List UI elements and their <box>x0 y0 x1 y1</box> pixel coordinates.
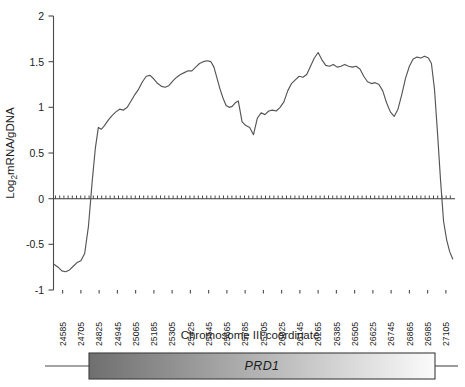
gene-name-label: PRD1 <box>245 359 280 373</box>
x-tick-label: 25305 <box>167 322 177 346</box>
x-tick-label: 24945 <box>113 322 123 346</box>
x-tick-label: 27105 <box>441 322 451 346</box>
y-tick-label: 1.5 <box>29 56 44 68</box>
x-tick-label: 24705 <box>76 322 86 346</box>
x-tick-label: 26385 <box>332 322 342 346</box>
x-tick-label: 26625 <box>368 322 378 346</box>
y-axis-ticks <box>49 16 54 290</box>
y-tick-label: 1 <box>38 101 44 113</box>
x-tick-label: 24585 <box>58 322 68 346</box>
y-tick-label: 0.5 <box>29 147 44 159</box>
x-tick-label: 26985 <box>423 322 433 346</box>
expression-profile-chart: 2 1.5 1 0.5 0 -0.5 -1 Log2mRNA/gDNA 2458… <box>0 0 465 387</box>
y-axis-title-rest: mRNA/gDNA <box>4 107 16 175</box>
y-axis-title-base: Log <box>4 180 16 199</box>
y-tick-label: -0.5 <box>26 238 44 250</box>
x-axis-title: Chromosome III coordinate <box>181 329 320 341</box>
y-tick-label: 2 <box>38 10 44 22</box>
chart-figure: 2 1.5 1 0.5 0 -0.5 -1 Log2mRNA/gDNA 2458… <box>0 0 465 387</box>
x-tick-label: 25185 <box>149 322 159 346</box>
gene-track: PRD1 <box>45 353 458 379</box>
x-tick-label: 26505 <box>350 322 360 346</box>
y-tick-label: -1 <box>35 284 44 296</box>
x-tick-label: 25065 <box>131 322 141 346</box>
y-axis-tick-labels: 2 1.5 1 0.5 0 -0.5 -1 <box>26 10 44 296</box>
zero-reference-line <box>54 195 456 198</box>
x-tick-label: 26745 <box>386 322 396 346</box>
x-axis-ticks <box>63 290 446 294</box>
x-tick-label: 24825 <box>94 322 104 346</box>
y-axis-title: Log2mRNA/gDNA <box>4 107 19 199</box>
y-tick-label: 0 <box>38 193 44 205</box>
x-tick-label: 26865 <box>405 322 415 346</box>
data-series-line <box>54 53 452 272</box>
